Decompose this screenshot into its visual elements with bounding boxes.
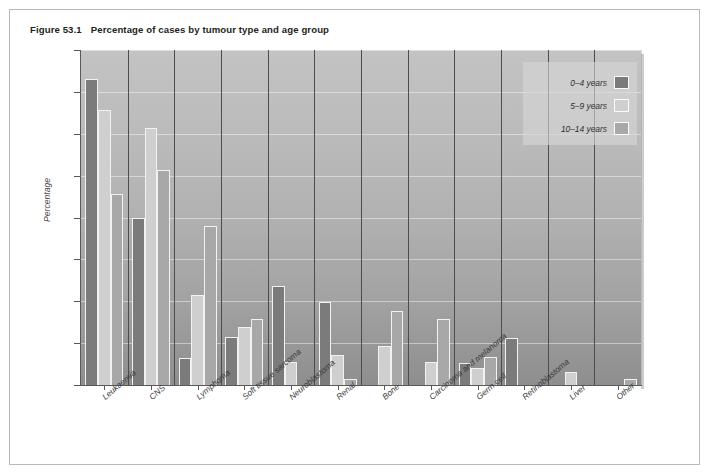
legend-swatch — [614, 99, 629, 112]
bar — [378, 346, 391, 385]
legend-item-label: 10–14 years — [561, 124, 607, 134]
bar — [391, 311, 404, 385]
y-axis-title: Percentage — [42, 155, 52, 245]
chart-legend: 0–4 years5–9 years10–14 years — [523, 62, 637, 145]
y-axis-tick — [74, 301, 80, 302]
bar — [145, 128, 158, 385]
bar — [111, 194, 124, 385]
legend-item: 0–4 years — [531, 71, 629, 94]
bar — [331, 355, 344, 385]
group-separator — [361, 50, 362, 385]
legend-swatch — [614, 76, 629, 89]
bar — [204, 226, 217, 385]
legend-item: 10–14 years — [531, 117, 629, 140]
bar — [98, 110, 111, 385]
y-axis-tick — [74, 50, 80, 51]
y-axis-tick — [74, 343, 80, 344]
figure-title: Percentage of cases by tumour type and a… — [91, 24, 329, 35]
bar — [132, 218, 145, 385]
figure-number: Figure 53.1 — [30, 24, 82, 35]
legend-swatch — [614, 122, 629, 135]
bar — [157, 170, 170, 385]
figure-frame: Figure 53.1Percentage of cases by tumour… — [9, 9, 700, 465]
figure-caption: Figure 53.1Percentage of cases by tumour… — [30, 24, 329, 35]
legend-item: 5–9 years — [531, 94, 629, 117]
y-axis-tick — [74, 385, 80, 386]
bar — [471, 368, 484, 385]
bar — [85, 79, 98, 385]
bar — [191, 295, 204, 385]
y-axis-tick — [74, 92, 80, 93]
group-separator — [128, 50, 129, 385]
bar — [565, 372, 578, 385]
legend-item-label: 5–9 years — [570, 101, 607, 111]
group-separator — [454, 50, 455, 385]
y-axis-tick — [74, 176, 80, 177]
y-axis-line — [80, 50, 81, 386]
group-separator — [314, 50, 315, 385]
legend-item-label: 0–4 years — [570, 78, 607, 88]
y-axis-tick — [74, 259, 80, 260]
group-separator — [221, 50, 222, 385]
group-separator — [174, 50, 175, 385]
bar — [238, 327, 251, 385]
y-axis-tick — [74, 134, 80, 135]
bar — [425, 362, 438, 385]
y-axis-tick — [74, 218, 80, 219]
plot-edge-shadow — [641, 54, 644, 389]
group-separator — [408, 50, 409, 385]
group-separator — [268, 50, 269, 385]
bar — [179, 358, 192, 385]
